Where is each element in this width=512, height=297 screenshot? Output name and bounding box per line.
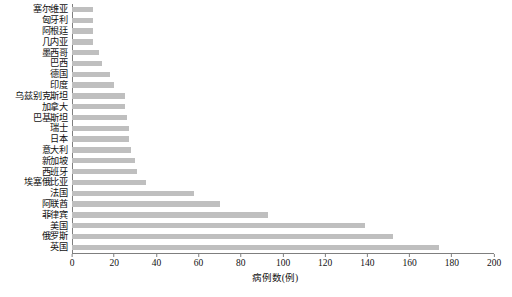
bar-row	[72, 220, 494, 231]
y-axis-category-label: 塞尔维亚	[0, 4, 70, 15]
bar	[72, 18, 93, 23]
y-axis-category-label: 德国	[0, 69, 70, 80]
bar	[72, 180, 146, 185]
y-axis-category-label: 意大利	[0, 145, 70, 156]
y-axis-category-label: 加拿大	[0, 101, 70, 112]
x-axis-tick: 80	[236, 254, 246, 269]
y-axis-category-label: 美国	[0, 220, 70, 231]
bar-row	[72, 4, 494, 15]
bar	[72, 245, 439, 250]
y-axis-category-label: 几内亚	[0, 36, 70, 47]
x-axis-tick-label: 180	[445, 257, 459, 269]
x-axis-tick: 20	[109, 254, 119, 269]
plot-area	[72, 4, 494, 253]
y-axis-category-label: 乌兹别克斯坦	[0, 91, 70, 102]
y-axis-category-label: 新加坡	[0, 155, 70, 166]
y-axis-category-label: 瑞士	[0, 123, 70, 134]
bar	[72, 115, 127, 120]
bar-row	[72, 166, 494, 177]
y-axis-category-label: 阿联酋	[0, 199, 70, 210]
x-axis-tick: 100	[276, 254, 290, 269]
y-axis-category-label: 巴西	[0, 58, 70, 69]
bar-row	[72, 231, 494, 242]
bar	[72, 234, 393, 239]
bar-row	[72, 58, 494, 69]
x-axis-tick: 180	[445, 254, 459, 269]
bar	[72, 212, 268, 217]
x-axis-tick: 40	[152, 254, 162, 269]
bar	[72, 223, 365, 228]
bar-row	[72, 80, 494, 91]
x-axis-tick-label: 160	[402, 257, 416, 269]
bar-row	[72, 101, 494, 112]
bar	[72, 126, 129, 131]
bar-row	[72, 199, 494, 210]
bar-row	[72, 26, 494, 37]
y-axis-category-label: 巴基斯坦	[0, 112, 70, 123]
bar	[72, 61, 102, 66]
bar	[72, 158, 135, 163]
y-axis-category-label: 匈牙利	[0, 15, 70, 26]
y-axis-category-label: 英国	[0, 242, 70, 253]
x-axis-tick-label: 80	[236, 257, 246, 269]
y-axis-category-label: 西班牙	[0, 166, 70, 177]
x-axis-tick-label: 0	[70, 257, 75, 269]
x-axis-tick: 160	[402, 254, 416, 269]
bar	[72, 201, 220, 206]
y-axis-category-label: 埃塞俄比亚	[0, 177, 70, 188]
bar-row	[72, 123, 494, 134]
bar-row	[72, 145, 494, 156]
bar-row	[72, 209, 494, 220]
bar	[72, 147, 131, 152]
x-axis-tick-label: 200	[487, 257, 501, 269]
bar	[72, 104, 125, 109]
bar	[72, 7, 93, 12]
bar-row	[72, 177, 494, 188]
y-axis-category-label: 菲律宾	[0, 209, 70, 220]
x-axis-title-text: 病例数(例)	[252, 270, 298, 284]
x-axis-tick-label: 100	[276, 257, 290, 269]
x-axis-tick-label: 120	[318, 257, 332, 269]
bar-row	[72, 36, 494, 47]
y-axis-category-labels: 塞尔维亚匈牙利阿根廷几内亚墨西哥巴西德国印度乌兹别克斯坦加拿大巴基斯坦瑞士日本意…	[0, 4, 70, 253]
bar-chart: 塞尔维亚匈牙利阿根廷几内亚墨西哥巴西德国印度乌兹别克斯坦加拿大巴基斯坦瑞士日本意…	[0, 0, 512, 297]
bar	[72, 39, 93, 44]
bar-row	[72, 242, 494, 253]
x-axis-tick: 200	[487, 254, 501, 269]
bar-row	[72, 134, 494, 145]
x-axis-tick-label: 40	[152, 257, 162, 269]
x-axis-tick: 120	[318, 254, 332, 269]
x-axis-tick: 60	[194, 254, 204, 269]
bar	[72, 169, 137, 174]
bar-row	[72, 69, 494, 80]
bar	[72, 191, 194, 196]
bar	[72, 82, 114, 87]
x-axis-tick-label: 140	[360, 257, 374, 269]
y-axis-category-label: 印度	[0, 80, 70, 91]
bar	[72, 72, 110, 77]
bar-row	[72, 47, 494, 58]
x-axis-ticks: 020406080100120140160180200	[72, 254, 494, 270]
y-axis-category-label: 俄罗斯	[0, 231, 70, 242]
y-axis-category-label: 法国	[0, 188, 70, 199]
bar	[72, 28, 93, 33]
x-axis-tick-label: 20	[109, 257, 119, 269]
x-axis-tick: 140	[360, 254, 374, 269]
y-axis-category-label: 阿根廷	[0, 26, 70, 37]
bar-rows	[72, 4, 494, 253]
y-axis-category-label: 墨西哥	[0, 47, 70, 58]
y-axis-category-label: 日本	[0, 134, 70, 145]
x-axis-tick: 0	[70, 254, 75, 269]
x-axis-tick-label: 60	[194, 257, 204, 269]
bar-row	[72, 188, 494, 199]
bar-row	[72, 15, 494, 26]
x-axis-title: 病例数(例)	[0, 270, 512, 284]
bar-row	[72, 91, 494, 102]
bar	[72, 136, 129, 141]
bar	[72, 93, 125, 98]
bar-row	[72, 155, 494, 166]
bar	[72, 50, 99, 55]
bar-row	[72, 112, 494, 123]
